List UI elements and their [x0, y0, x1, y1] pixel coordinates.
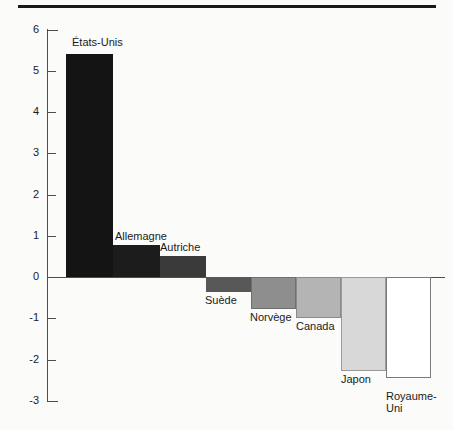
bar-8: [386, 277, 431, 378]
y-tick-label: -3: [15, 395, 39, 406]
y-tick-label: -2: [15, 354, 39, 365]
bar-label-5: Norvège: [250, 311, 292, 323]
y-tick-mark: [47, 236, 56, 237]
y-tick-mark: [47, 71, 56, 72]
bar-label-8: Royaume-Uni: [386, 390, 440, 415]
bar-7: [341, 277, 386, 371]
y-tick-label: -1: [15, 312, 39, 323]
y-tick-label: 6: [15, 24, 39, 35]
y-tick-label: 2: [15, 189, 39, 200]
bar-chart-plot: 6543210-1-2-3 États-UnisAllemagneAutrich…: [0, 0, 453, 430]
chart-page: 6543210-1-2-3 États-UnisAllemagneAutrich…: [0, 0, 453, 430]
bar-label-4: Suède: [205, 294, 237, 306]
y-tick-label: 1: [15, 230, 39, 241]
y-tick-mark: [47, 401, 58, 402]
bar-1: [66, 54, 113, 277]
y-tick-label: 0: [15, 271, 39, 282]
y-tick-mark: [47, 112, 56, 113]
y-tick-label: 5: [15, 65, 39, 76]
bar-label-3: Autriche: [160, 241, 200, 253]
y-tick-mark: [47, 318, 56, 319]
bar-label-6: Canada: [296, 320, 335, 332]
bar-5: [251, 277, 296, 309]
bar-label-1: États-Unis: [72, 36, 123, 48]
bar-4: [206, 277, 251, 292]
bar-2: [113, 245, 160, 277]
bar-3: [160, 256, 206, 277]
bar-6: [296, 277, 341, 318]
y-tick-mark: [47, 195, 56, 196]
y-tick-mark: [47, 153, 56, 154]
y-tick-mark: [47, 30, 58, 31]
y-tick-mark: [47, 277, 56, 278]
y-tick-label: 4: [15, 106, 39, 117]
y-tick-label: 3: [15, 147, 39, 158]
y-tick-mark: [47, 360, 56, 361]
bar-label-7: Japon: [341, 373, 371, 385]
y-axis-line: [47, 29, 48, 401]
